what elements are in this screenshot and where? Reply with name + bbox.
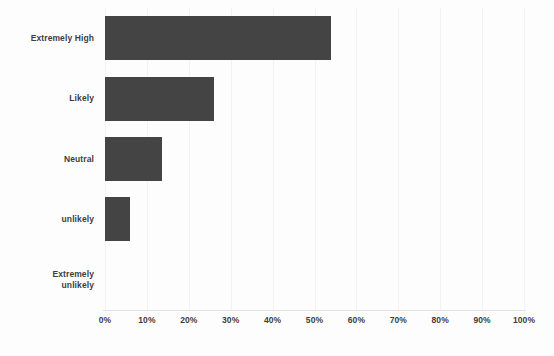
x-tick-label: 30%: [222, 315, 239, 325]
gridline: [356, 8, 357, 310]
x-tick-label: 10%: [138, 315, 155, 325]
x-axis-line: [103, 310, 526, 311]
x-tick-label: 60%: [348, 315, 365, 325]
bar: [105, 197, 130, 241]
category-label-line: Likely: [0, 93, 94, 104]
category-label: Likely: [0, 93, 94, 104]
category-label-line: Neutral: [0, 154, 94, 165]
bar: [105, 137, 162, 181]
category-label: Extremely High: [0, 33, 94, 44]
x-tick-label: 0%: [99, 315, 112, 325]
category-label-line: Extremely: [0, 269, 94, 280]
plot-area: [105, 8, 524, 310]
x-axis-tick-labels: 0%10%20%30%40%50%60%70%80%90%100%: [105, 315, 524, 335]
horizontal-bar-chart: Extremely HighLikelyNeutralunlikelyExtre…: [0, 0, 554, 356]
x-tick-label: 100%: [513, 315, 535, 325]
y-axis-category-labels: Extremely HighLikelyNeutralunlikelyExtre…: [0, 0, 100, 310]
category-label: Neutral: [0, 154, 94, 165]
x-tick-label: 90%: [473, 315, 490, 325]
gridline: [482, 8, 483, 310]
category-label: unlikely: [0, 214, 94, 225]
category-label-line: unlikely: [0, 280, 94, 291]
gridline: [440, 8, 441, 310]
gridline: [524, 8, 525, 310]
x-tick-label: 50%: [306, 315, 323, 325]
x-tick-label: 40%: [264, 315, 281, 325]
x-tick-label: 20%: [180, 315, 197, 325]
category-label-line: unlikely: [0, 214, 94, 225]
bar: [105, 16, 331, 60]
x-tick-label: 80%: [432, 315, 449, 325]
category-label: Extremelyunlikely: [0, 269, 94, 291]
bar: [105, 77, 214, 121]
gridline: [398, 8, 399, 310]
category-label-line: Extremely High: [0, 33, 94, 44]
x-tick-label: 70%: [390, 315, 407, 325]
